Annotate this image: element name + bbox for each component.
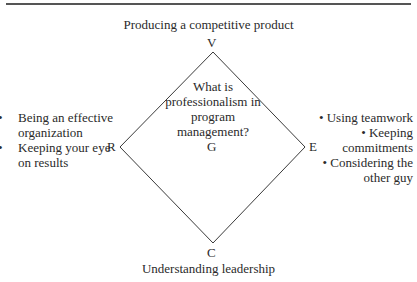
vertex-c-label: C [207,246,216,260]
right-list: • Using teamwork • Keeping commitments •… [310,110,413,185]
right-list-item: • Using teamwork [310,110,413,125]
center-question: What is professionalism in program manag… [163,79,263,139]
left-list-item: •Being an effective organization [8,110,123,140]
bullet-icon: • [361,125,366,140]
bullet-icon: • [323,155,328,170]
left-list-item: •Keeping your eye on results [8,140,123,170]
bullet-icon: • [8,110,18,125]
right-list-item: • Considering the other guy [310,155,413,185]
right-list-item: • Keeping commitments [310,125,413,155]
center-g-label: G [207,140,216,154]
bullet-icon: • [319,110,324,125]
left-list: •Being an effective organization •Keepin… [8,110,123,170]
bullet-icon: • [8,140,18,155]
vertex-v-label: V [207,36,216,50]
bottom-axis-label: Understanding leadership [0,261,417,276]
